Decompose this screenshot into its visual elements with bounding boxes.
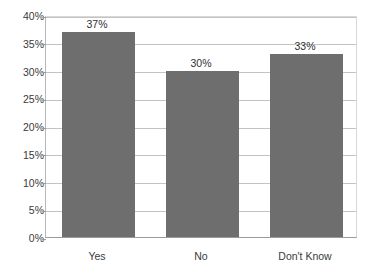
bar [62,32,135,237]
y-axis-tick-mark [42,72,46,73]
x-axis-category-label: Don't Know [253,251,357,262]
y-axis-tick-label: 10% [4,177,44,188]
bar [270,54,343,237]
bar-chart: 0%5%10%15%20%25%30%35%40% 37%30%33% YesN… [0,0,369,274]
y-axis-tick-mark [42,17,46,18]
y-axis-tick-label: 20% [4,122,44,133]
bar [166,71,239,238]
y-axis-tick-label: 15% [4,150,44,161]
bar-value-label: 33% [269,41,342,52]
y-axis-tick-mark [42,44,46,45]
x-axis-category-label: No [149,251,253,262]
y-axis-tick-mark [42,239,46,240]
y-axis-tick-label: 0% [4,233,44,244]
y-axis-tick-label: 30% [4,66,44,77]
y-axis-tick-mark [42,211,46,212]
y-axis-tick-label: 25% [4,94,44,105]
bar-value-label: 30% [165,58,238,69]
y-axis-tick-mark [42,155,46,156]
y-axis-tick-mark [42,100,46,101]
y-axis-tick-label: 40% [4,11,44,22]
y-axis-tick-mark [42,128,46,129]
bar-value-label: 37% [61,19,134,30]
y-axis-tick-mark [42,183,46,184]
y-axis-tick-label: 35% [4,39,44,50]
x-axis-category-label: Yes [45,251,149,262]
y-axis-tick-label: 5% [4,205,44,216]
